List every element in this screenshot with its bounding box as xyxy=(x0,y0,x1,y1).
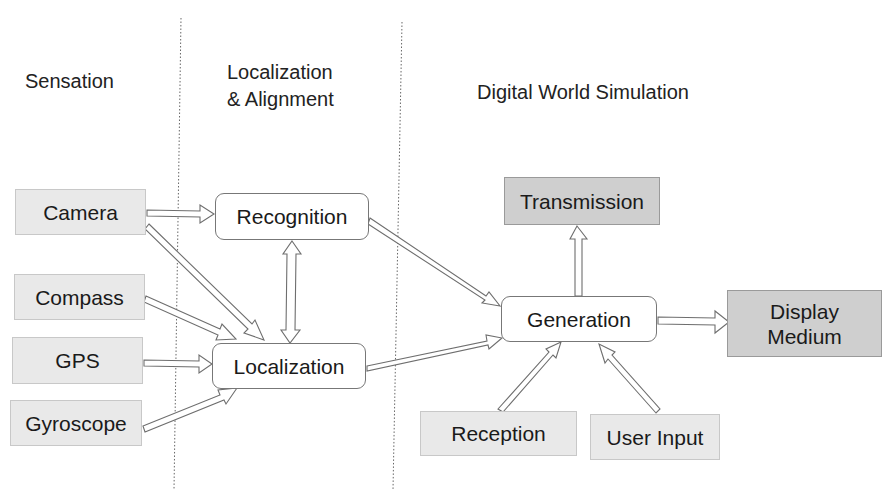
arrow-gps-localization xyxy=(144,355,212,373)
node-user-input: User Input xyxy=(590,414,720,460)
node-recognition: Recognition xyxy=(215,193,369,240)
heading-line-1: Localization xyxy=(227,59,334,86)
node-label: Gyroscope xyxy=(25,411,127,436)
node-label: Localization xyxy=(234,354,345,379)
arrow-gyroscope-localization xyxy=(143,388,237,432)
arrow-localization-generation xyxy=(367,335,502,371)
node-label-line-2: Medium xyxy=(767,324,842,349)
node-transmission: Transmission xyxy=(504,177,660,225)
node-gps: GPS xyxy=(12,337,143,384)
arrow-recognition-generation xyxy=(368,218,500,306)
node-display-medium: Display Medium xyxy=(727,290,882,357)
node-camera: Camera xyxy=(15,189,146,235)
node-label-line-1: Display xyxy=(770,299,839,324)
arrow-generation-transmission xyxy=(570,226,587,296)
column-divider-2 xyxy=(393,22,402,490)
node-label: GPS xyxy=(55,348,99,373)
node-label: Transmission xyxy=(520,189,644,214)
node-label: Camera xyxy=(43,200,118,225)
column-heading-simulation: Digital World Simulation xyxy=(477,79,689,106)
node-localization: Localization xyxy=(212,343,366,389)
arrow-reception-generation xyxy=(498,342,561,412)
arrow-recognition-localization xyxy=(281,241,301,343)
node-label: Generation xyxy=(527,307,631,332)
arrow-userinput-generation xyxy=(599,344,660,413)
arrow-generation-display xyxy=(658,311,729,333)
node-generation: Generation xyxy=(501,296,657,342)
column-heading-sensation: Sensation xyxy=(25,68,114,95)
heading-line-2: & Alignment xyxy=(227,86,334,113)
node-label: Recognition xyxy=(237,204,348,229)
node-label: Compass xyxy=(35,285,124,310)
column-heading-localization: Localization & Alignment xyxy=(227,59,334,113)
node-label: User Input xyxy=(607,425,704,450)
arrow-camera-recognition xyxy=(147,205,214,223)
node-gyroscope: Gyroscope xyxy=(10,400,142,446)
node-compass: Compass xyxy=(14,274,145,320)
node-label: Reception xyxy=(451,421,546,446)
node-reception: Reception xyxy=(420,411,577,456)
